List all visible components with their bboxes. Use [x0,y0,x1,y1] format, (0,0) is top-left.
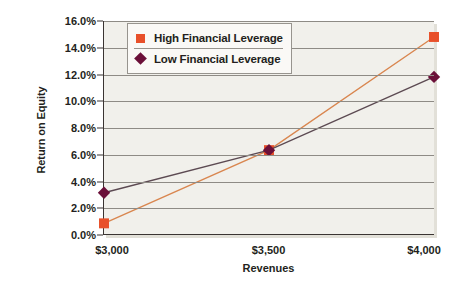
chart-legend: High Financial Leverage Low Financial Le… [127,23,292,74]
y-axis-title-label: Return on Equity [34,86,46,173]
legend-label-low-financial-leverage: Low Financial Leverage [154,53,280,65]
gridline [104,182,434,183]
gridline [104,208,434,209]
legend-item-high-financial-leverage: High Financial Leverage [134,27,283,48]
y-axis-tick-mark [97,128,103,129]
y-axis-tick-label: 2.0% [71,202,96,214]
y-axis-tick-label: 8.0% [71,122,96,134]
gridline [104,155,434,156]
gridline [104,21,434,22]
y-axis-tick-label: 4.0% [71,176,96,188]
y-axis-tick-mark [97,74,103,75]
plot-area: High Financial Leverage Low Financial Le… [103,21,434,235]
diamond-marker-icon [134,52,148,66]
y-axis-tick-mark [97,154,103,155]
data-point-square [429,32,439,42]
x-axis-title: Revenues [103,262,434,274]
y-axis-tick-label: 14.0% [65,42,96,54]
legend-item-low-financial-leverage: Low Financial Leverage [134,48,283,69]
y-axis-tick-label: 16.0% [65,15,96,27]
x-axis-tick-labels: $3,000$3,500$4,000 [0,244,455,260]
y-axis-tick-label: 12.0% [65,69,96,81]
legend-label-high-financial-leverage: High Financial Leverage [154,32,283,44]
chart-container: Return on Equity 0.0%2.0%4.0%6.0%8.0%10.… [0,0,455,302]
gridline [104,75,434,76]
y-axis-tick-mark [97,235,103,236]
y-axis-tick-mark [97,101,103,102]
x-axis-tick-label: $4,000 [407,244,441,256]
x-axis-tick-label: $3,000 [95,244,129,256]
x-axis-tick-label: $3,500 [252,244,286,256]
series-line-low-financial-leverage [104,77,434,193]
y-axis-tick-mark [97,181,103,182]
y-axis-tick-mark [97,21,103,22]
y-axis-tick-label: 6.0% [71,149,96,161]
y-axis-tick-mark [97,208,103,209]
y-axis-tick-mark [97,47,103,48]
square-marker-icon [134,31,148,45]
data-point-square [99,218,109,228]
y-axis-tick-label: 0.0% [71,229,96,241]
y-axis-tick-label: 10.0% [65,95,96,107]
gridline [104,101,434,102]
data-point-diamond [428,71,440,83]
y-axis-tick-labels: 0.0%2.0%4.0%6.0%8.0%10.0%12.0%14.0%16.0% [48,21,100,235]
y-axis-title: Return on Equity [30,57,50,202]
gridline [104,128,434,129]
